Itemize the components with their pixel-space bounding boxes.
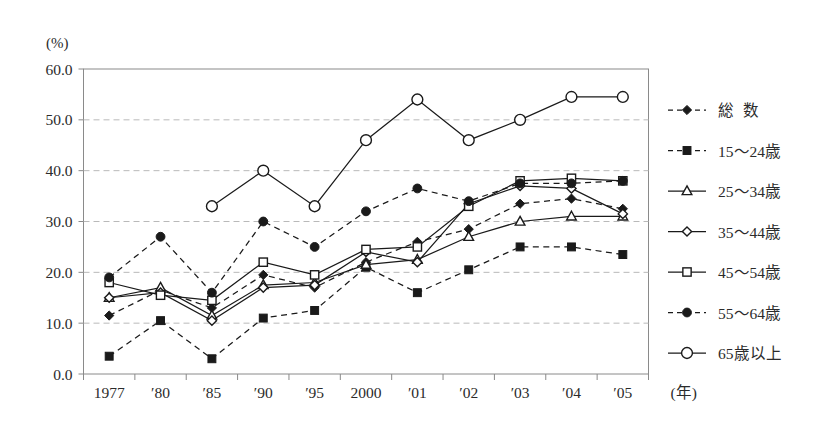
marker-filled-circle (259, 217, 268, 226)
marker-open-circle (361, 135, 372, 146)
legend-item[interactable]: 25～34歳 (668, 183, 781, 200)
marker-open-circle (682, 348, 693, 359)
marker-open-triangle (567, 211, 577, 220)
marker-filled-circle (310, 243, 319, 252)
marker-filled-circle (413, 184, 422, 193)
marker-filled-square (157, 317, 165, 325)
marker-filled-diamond (515, 199, 524, 208)
legend-item[interactable]: 65歳以上 (668, 345, 782, 362)
marker-open-circle (617, 92, 628, 103)
marker-open-diamond (682, 227, 691, 236)
marker-open-circle (566, 92, 577, 103)
x-axis: 1977′80′85′90′952000′01′02′03′04′05(年) (84, 374, 697, 402)
marker-open-square (362, 245, 370, 253)
marker-filled-circle (156, 232, 165, 241)
series-layer (104, 92, 628, 363)
marker-filled-diamond (105, 311, 114, 320)
x-axis-label: (年) (671, 384, 697, 402)
x-axis-tick-label: ′03 (511, 384, 530, 401)
marker-open-circle (258, 165, 269, 176)
x-axis-tick-label: ′90 (254, 384, 273, 401)
x-axis-tick-label: ′85 (202, 384, 221, 401)
series-3 (104, 211, 627, 319)
legend-item[interactable]: 55～64歳 (668, 305, 781, 322)
y-axis-tick-label: 0.0 (53, 366, 73, 383)
marker-filled-circle (683, 308, 692, 317)
marker-filled-square (683, 147, 691, 155)
legend-label: 35～44歳 (718, 224, 781, 241)
marker-filled-circle (567, 179, 576, 188)
marker-open-triangle (682, 186, 692, 195)
line-chart: (%)0.010.020.030.040.050.060.01977′80′85… (0, 0, 834, 433)
x-axis-tick-label: 1977 (94, 384, 125, 401)
marker-filled-square (465, 266, 473, 274)
series-6 (105, 176, 627, 297)
marker-filled-circle (464, 197, 473, 206)
marker-filled-square (311, 307, 319, 315)
marker-open-square (310, 271, 318, 279)
x-axis-tick-label: ′01 (408, 384, 427, 401)
x-axis-tick-label: ′04 (562, 384, 581, 401)
x-axis-tick-label: ′05 (613, 384, 632, 401)
series-line (109, 181, 623, 293)
marker-filled-circle (362, 207, 371, 216)
marker-filled-square (259, 314, 267, 322)
y-axis-tick-label: 50.0 (45, 111, 72, 128)
marker-open-square (683, 268, 691, 276)
series-7 (206, 92, 628, 212)
marker-open-square (259, 258, 267, 266)
chart-container: (%)0.010.020.030.040.050.060.01977′80′85… (0, 0, 834, 433)
x-axis-tick-label: ′02 (459, 384, 478, 401)
y-axis-unit-label: (%) (46, 35, 69, 52)
y-axis-tick-label: 60.0 (45, 61, 72, 78)
legend-label: 総数 (718, 102, 768, 119)
legend-item[interactable]: 15～24歳 (668, 143, 781, 160)
marker-filled-square (105, 352, 113, 360)
marker-filled-circle (105, 273, 114, 282)
marker-filled-diamond (567, 194, 576, 203)
marker-open-circle (206, 201, 217, 212)
legend-label: 55～64歳 (718, 305, 781, 322)
y-axis-tick-label: 30.0 (45, 213, 72, 230)
x-axis-tick-label: ′80 (151, 384, 170, 401)
series-5 (105, 174, 627, 304)
legend-label: 65歳以上 (718, 345, 782, 362)
marker-open-square (413, 243, 421, 251)
marker-filled-diamond (259, 270, 268, 279)
legend-label: 15～24歳 (718, 143, 781, 160)
legend-item[interactable]: 45～54歳 (668, 264, 781, 281)
series-line (109, 178, 623, 300)
marker-open-circle (515, 114, 526, 125)
marker-filled-circle (207, 288, 216, 297)
marker-open-circle (412, 94, 423, 105)
marker-filled-square (516, 243, 524, 251)
y-axis-tick-label: 20.0 (45, 264, 72, 281)
marker-filled-square (208, 355, 216, 363)
marker-filled-square (413, 289, 421, 297)
legend-label: 25～34歳 (718, 183, 781, 200)
marker-filled-square (567, 243, 575, 251)
legend-label: 45～54歳 (718, 264, 781, 281)
marker-open-circle (309, 201, 320, 212)
x-axis-tick-label: 2000 (351, 384, 382, 401)
marker-open-square (156, 291, 164, 299)
legend-item[interactable]: 35～44歳 (668, 224, 781, 241)
marker-filled-diamond (682, 105, 691, 114)
x-axis-tick-label: ′95 (305, 384, 324, 401)
y-gridlines: 0.010.020.030.040.050.060.0 (45, 61, 648, 383)
marker-filled-square (619, 251, 627, 259)
marker-filled-circle (618, 176, 627, 185)
marker-filled-circle (516, 179, 525, 188)
y-axis-tick-label: 10.0 (45, 315, 72, 332)
legend: 総数15～24歳25～34歳35～44歳45～54歳55～64歳65歳以上 (668, 102, 782, 362)
y-axis-tick-label: 40.0 (45, 162, 72, 179)
legend-item[interactable]: 総数 (668, 102, 768, 119)
marker-open-circle (463, 135, 474, 146)
